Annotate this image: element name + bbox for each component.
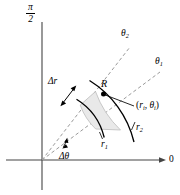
- axis-label-pi-over-2: π 2: [26, 3, 35, 25]
- r2-subscript: 2: [140, 126, 143, 133]
- polar-sector-figure: π 2 θ2 θ1 Δr R (ri, θi) r2 r1 Δθ 0: [0, 0, 180, 195]
- theta1-subscript: 1: [160, 60, 163, 67]
- r2-leader: [132, 122, 136, 130]
- label-theta2: θ2: [121, 29, 129, 39]
- label-r2: r2: [136, 123, 143, 133]
- sample-point-dot: [101, 92, 106, 97]
- label-r1: r1: [101, 140, 108, 150]
- r1-leader: [100, 132, 103, 139]
- region-R-shading: [80, 92, 120, 131]
- pi-numerator: π: [26, 3, 35, 13]
- r1-subscript: 1: [105, 143, 108, 150]
- theta2-subscript: 2: [126, 32, 129, 39]
- label-theta1: θ1: [155, 57, 163, 67]
- label-delta-theta: Δθ: [59, 152, 69, 162]
- point-leader-line: [104, 95, 134, 107]
- figure-canvas: [0, 0, 180, 195]
- pi-denominator: 2: [26, 15, 35, 25]
- horizontal-axis: [6, 157, 166, 162]
- axis-label-zero: 0: [169, 155, 174, 165]
- delta-r-arrow: [60, 86, 76, 107]
- label-region-R: R: [101, 79, 107, 89]
- label-delta-r: Δr: [48, 77, 57, 87]
- label-sample-point-coords: (ri, θi): [136, 101, 159, 111]
- paren-close: ): [156, 100, 159, 110]
- delta-theta-arrow: [62, 138, 68, 149]
